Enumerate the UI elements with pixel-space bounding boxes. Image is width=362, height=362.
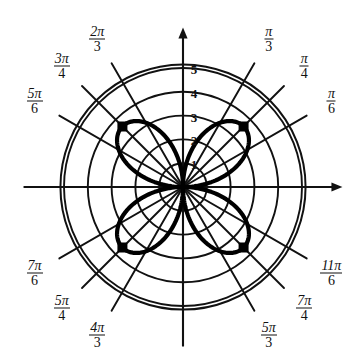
angle-label-denominator: 4 xyxy=(300,66,309,80)
petal-tip-marker-225deg xyxy=(117,243,127,253)
angle-label-numerator: 7π xyxy=(296,294,312,309)
angle-label-denominator: 4 xyxy=(54,309,70,323)
angle-label-315deg: 7π4 xyxy=(296,294,312,323)
angle-label-numerator: 5π xyxy=(261,321,277,336)
angle-label-denominator: 6 xyxy=(327,102,336,116)
petal-tip-marker-315deg xyxy=(239,243,249,253)
angle-label-denominator: 6 xyxy=(320,273,342,287)
angle-label-denominator: 6 xyxy=(27,273,43,287)
polar-plot-figure: π6π4π32π33π45π67π65π44π35π37π411π6 12345 xyxy=(0,0,362,362)
angle-label-denominator: 3 xyxy=(89,39,105,53)
angle-label-denominator: 3 xyxy=(261,336,277,350)
angle-label-numerator: 3π xyxy=(54,51,70,66)
horizontal-axis-arrow-icon xyxy=(331,182,342,191)
angle-label-numerator: 7π xyxy=(27,258,43,273)
radial-tick-label-4: 4 xyxy=(191,86,198,102)
angle-label-numerator: 5π xyxy=(54,294,70,309)
angle-label-numerator: π xyxy=(327,87,336,102)
angle-label-210deg: 7π6 xyxy=(27,258,43,287)
angle-label-numerator: π xyxy=(300,51,309,66)
angle-label-numerator: 11π xyxy=(320,258,342,273)
angle-label-120deg: 2π3 xyxy=(89,24,105,53)
angle-label-denominator: 4 xyxy=(296,309,312,323)
angle-label-225deg: 5π4 xyxy=(54,294,70,323)
radial-tick-label-5: 5 xyxy=(191,62,198,78)
angle-label-denominator: 3 xyxy=(89,336,105,350)
angle-label-numerator: π xyxy=(264,24,273,39)
angle-label-numerator: 4π xyxy=(89,321,105,336)
angle-label-30deg: π6 xyxy=(327,87,336,116)
petal-tip-marker-135deg xyxy=(117,121,127,131)
angle-label-300deg: 5π3 xyxy=(261,321,277,350)
angle-label-45deg: π4 xyxy=(300,51,309,80)
angle-label-denominator: 6 xyxy=(27,102,43,116)
angle-label-150deg: 5π6 xyxy=(27,87,43,116)
angle-label-240deg: 4π3 xyxy=(89,321,105,350)
angle-label-330deg: 11π6 xyxy=(320,258,342,287)
angle-label-135deg: 3π4 xyxy=(54,51,70,80)
angle-label-60deg: π3 xyxy=(264,24,273,53)
radial-tick-label-3: 3 xyxy=(191,110,198,126)
angle-label-denominator: 4 xyxy=(54,66,70,80)
angle-label-numerator: 5π xyxy=(27,87,43,102)
radial-tick-label-2: 2 xyxy=(191,133,198,149)
petal-tip-marker-45deg xyxy=(239,121,249,131)
vertical-axis-arrow-icon xyxy=(178,28,187,39)
angle-label-denominator: 3 xyxy=(264,39,273,53)
radial-tick-label-1: 1 xyxy=(191,157,198,173)
angle-label-numerator: 2π xyxy=(89,24,105,39)
